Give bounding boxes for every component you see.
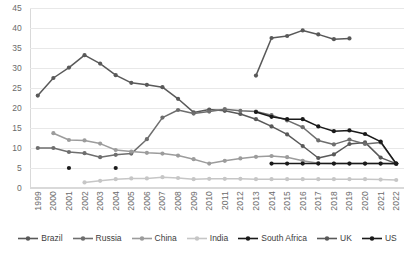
data-point	[347, 162, 351, 166]
data-point	[332, 142, 336, 146]
data-point	[269, 162, 273, 166]
data-point	[254, 177, 258, 181]
legend-label: China	[155, 233, 177, 243]
y-axis-labels: 051015202530354045	[0, 8, 26, 188]
x-axis-tick-label: 2012	[235, 191, 245, 211]
data-point	[254, 74, 258, 78]
x-axis-tick-label: 2007	[157, 191, 167, 211]
legend-marker-icon	[72, 234, 94, 243]
data-point	[98, 179, 102, 183]
data-point	[269, 154, 273, 158]
data-point	[98, 62, 102, 66]
data-point	[207, 177, 211, 181]
x-axis-tick-label: 2008	[173, 191, 183, 211]
x-axis-tick-label: 2005	[126, 191, 136, 211]
series-south-africa	[67, 162, 398, 171]
x-axis-tick-label: 2018	[329, 191, 339, 211]
series-line	[38, 55, 396, 163]
data-point	[269, 124, 273, 128]
data-point	[301, 117, 305, 121]
x-axis-tick-label: 2006	[142, 191, 152, 211]
data-point	[301, 144, 305, 148]
data-point	[238, 177, 242, 181]
data-point	[379, 178, 383, 182]
data-point	[347, 177, 351, 181]
data-point	[332, 177, 336, 181]
legend-item-india[interactable]: India	[186, 233, 228, 243]
x-axis-tick-label: 2019	[344, 191, 354, 211]
data-point	[114, 153, 118, 157]
data-point	[316, 156, 320, 160]
legend-item-china[interactable]: China	[131, 233, 177, 243]
data-point	[347, 142, 351, 146]
data-point	[82, 180, 86, 184]
data-point	[192, 112, 196, 116]
series-brazil	[36, 53, 399, 166]
legend-label: Russia	[96, 233, 122, 243]
legend-marker-icon	[17, 234, 39, 243]
data-point	[160, 85, 164, 89]
data-point	[363, 177, 367, 181]
x-axis-tick-label: 2016	[298, 191, 308, 211]
data-point	[379, 156, 383, 160]
data-point	[316, 177, 320, 181]
x-axis-tick-label: 2014	[267, 191, 277, 211]
data-point	[145, 83, 149, 87]
data-point	[51, 76, 55, 80]
data-point	[192, 157, 196, 161]
data-point	[82, 53, 86, 57]
data-point	[51, 146, 55, 150]
data-point	[160, 152, 164, 156]
legend-label: Brazil	[41, 233, 62, 243]
x-axis-tick-label: 2020	[360, 191, 370, 211]
data-point	[82, 138, 86, 142]
data-point	[269, 36, 273, 40]
data-point	[316, 138, 320, 142]
data-point	[98, 155, 102, 159]
legend-item-south-africa[interactable]: South Africa	[237, 233, 307, 243]
legend-item-russia[interactable]: Russia	[72, 233, 122, 243]
x-axis-tick-label: 2003	[95, 191, 105, 211]
x-axis-tick-label: 2015	[282, 191, 292, 211]
data-point	[207, 110, 211, 114]
data-point	[145, 137, 149, 141]
data-point	[67, 166, 71, 170]
x-axis-tick-label: 2010	[204, 191, 214, 211]
y-axis-tick-label: 25	[12, 83, 22, 93]
legend-marker-icon	[316, 234, 338, 243]
data-point	[394, 178, 398, 182]
data-point	[67, 66, 71, 70]
legend-marker-icon	[361, 234, 383, 243]
data-point	[254, 155, 258, 159]
data-point	[114, 177, 118, 181]
series-china	[51, 131, 398, 166]
series-line	[38, 109, 396, 164]
data-point	[285, 177, 289, 181]
legend-marker-icon	[186, 234, 208, 243]
legend-item-brazil[interactable]: Brazil	[17, 233, 62, 243]
series-uk	[254, 28, 352, 77]
data-point	[285, 117, 289, 121]
y-axis-tick-label: 15	[12, 123, 22, 133]
series-india	[82, 175, 398, 184]
data-point	[316, 124, 320, 128]
series-us	[254, 110, 398, 166]
x-axis-tick-label: 2000	[48, 191, 58, 211]
legend-item-uk[interactable]: UK	[316, 233, 352, 243]
data-point	[176, 97, 180, 101]
data-point	[363, 142, 367, 146]
data-point	[254, 117, 258, 121]
data-point	[316, 162, 320, 166]
y-axis-tick-label: 30	[12, 63, 22, 73]
data-point	[176, 176, 180, 180]
y-axis-tick-label: 40	[12, 23, 22, 33]
x-axis-tick-label: 2004	[111, 191, 121, 211]
data-point	[285, 132, 289, 136]
data-point	[285, 162, 289, 166]
data-point	[160, 116, 164, 120]
data-point	[114, 166, 118, 170]
legend-item-us[interactable]: US	[361, 233, 397, 243]
data-point	[301, 177, 305, 181]
data-point	[67, 150, 71, 154]
x-axis-tick-label: 2001	[64, 191, 74, 211]
